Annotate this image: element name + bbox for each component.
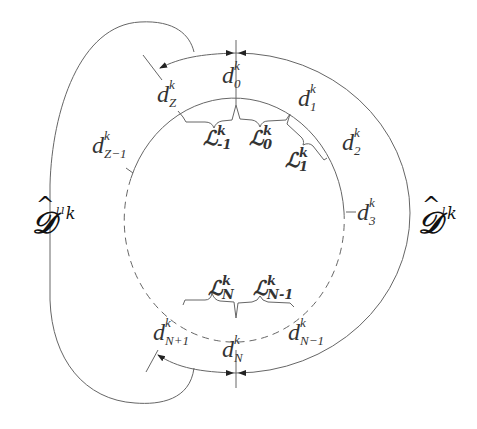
node-dZ: dkZ (157, 82, 169, 106)
segment-L0: ℒk0 (249, 128, 263, 148)
diagram-canvas: dk0 dk1 dk2 dk3 dkZ dkZ−1 dkN dkN+1 dkN−… (0, 0, 477, 429)
inner-circle-dashed (124, 178, 344, 342)
node-d3: dk3 (357, 200, 369, 224)
node-dN-minus-1: dkN−1 (288, 320, 300, 344)
segment-L-minus-1: ℒk-1 (203, 128, 217, 148)
node-d2: dk2 (342, 130, 354, 154)
segment-L1: ℒk1 (285, 150, 299, 170)
node-d0: dk0 (222, 63, 234, 87)
node-dZ-minus-1: dkZ−1 (92, 133, 104, 157)
brace-L-1 (183, 105, 236, 128)
outer-label-D-prime: ^𝒟ˡk (418, 208, 442, 238)
node-d1: dk1 (298, 86, 310, 110)
node-dN-plus-1: dkN+1 (153, 320, 165, 344)
inner-circle-solid (131, 98, 344, 212)
outer-label-D-double-prime: ^𝒟ˡˡk (32, 208, 56, 238)
segment-LN: ℒkN (208, 278, 222, 298)
outer-right-arc (236, 53, 410, 373)
node-dN: dkN (222, 337, 234, 361)
segment-LN-minus-1: ℒkN-1 (253, 278, 267, 298)
